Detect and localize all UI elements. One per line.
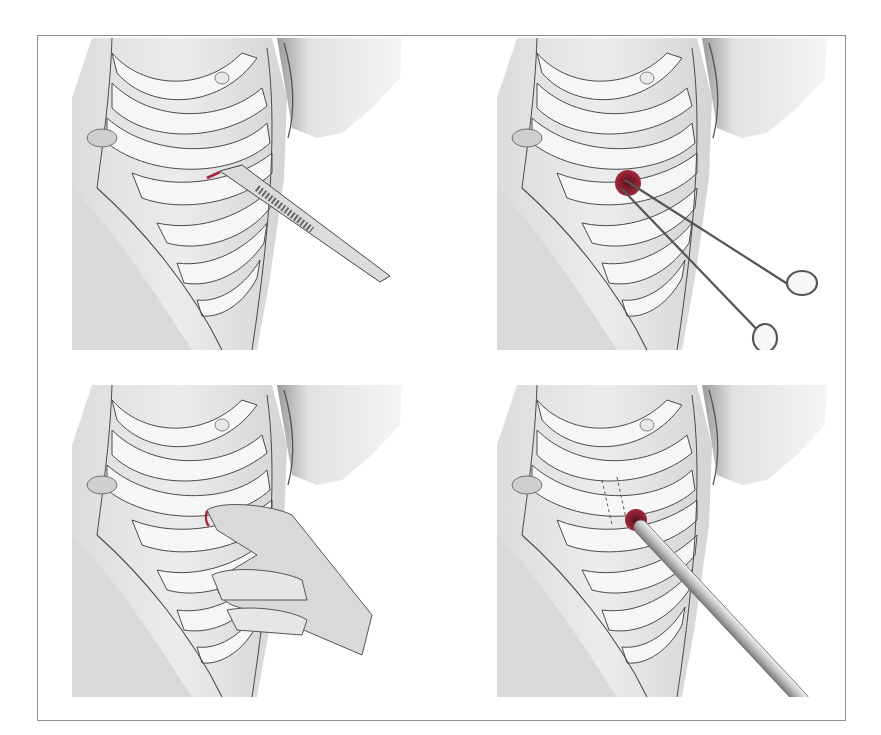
panel-c: c (72, 385, 402, 697)
rib-cage-illustration (497, 385, 827, 697)
panel-b: b (497, 38, 827, 350)
panel-d: d (497, 385, 827, 697)
rib-cage-illustration (72, 38, 402, 350)
panel-a: a (72, 38, 402, 350)
rib-cage-illustration (72, 385, 402, 697)
rib-cage-illustration (497, 38, 827, 350)
